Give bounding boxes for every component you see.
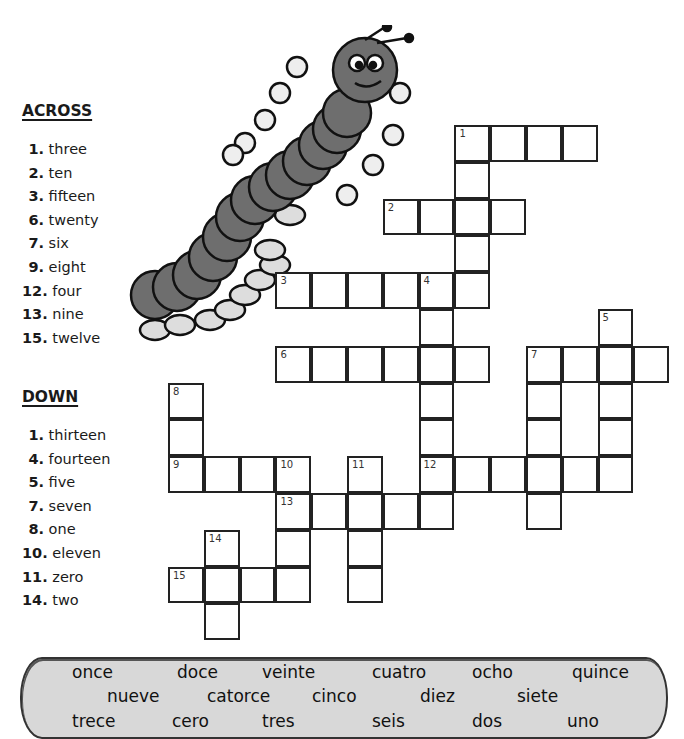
clue-number: 5.: [22, 471, 44, 495]
grid-cell[interactable]: [419, 346, 455, 383]
grid-cell[interactable]: [419, 309, 455, 346]
grid-cell[interactable]: [347, 493, 383, 530]
grid-cell[interactable]: [454, 346, 490, 383]
grid-cell[interactable]: [168, 419, 204, 456]
down-clue: 14. two: [22, 589, 110, 613]
grid-cell[interactable]: [526, 419, 562, 456]
across-clue: 3. fifteen: [22, 185, 100, 209]
clue-text: eleven: [48, 545, 101, 561]
cell-number: 15: [173, 570, 186, 581]
down-heading: DOWN: [22, 388, 110, 406]
grid-cell[interactable]: [633, 346, 669, 383]
grid-cell[interactable]: [383, 493, 419, 530]
grid-cell[interactable]: [311, 272, 347, 309]
grid-cell[interactable]: [275, 530, 311, 567]
grid-cell[interactable]: 7: [526, 346, 562, 383]
grid-cell[interactable]: [454, 162, 490, 199]
clue-text: eight: [44, 259, 86, 275]
word-bank-item: cero: [172, 711, 209, 731]
grid-cell[interactable]: [490, 125, 526, 162]
cell-number: 8: [173, 386, 179, 397]
grid-cell[interactable]: [311, 493, 347, 530]
down-clue: 7. seven: [22, 495, 110, 519]
grid-cell[interactable]: [562, 456, 598, 493]
grid-cell[interactable]: [347, 567, 383, 604]
grid-cell[interactable]: [383, 272, 419, 309]
grid-cell[interactable]: 14: [204, 530, 240, 567]
grid-cell[interactable]: [347, 272, 383, 309]
grid-cell[interactable]: [454, 456, 490, 493]
down-clue: 8. one: [22, 518, 110, 542]
grid-cell[interactable]: [526, 383, 562, 420]
grid-cell[interactable]: 11: [347, 456, 383, 493]
grid-cell[interactable]: 9: [168, 456, 204, 493]
clue-text: one: [44, 521, 76, 537]
cell-number: 2: [388, 202, 394, 213]
grid-cell[interactable]: [419, 383, 455, 420]
grid-cell[interactable]: [598, 419, 634, 456]
grid-cell[interactable]: [419, 199, 455, 236]
clue-number: 15.: [22, 327, 48, 351]
word-bank-item: doce: [177, 662, 218, 682]
clue-number: 14.: [22, 589, 48, 613]
clue-number: 1.: [22, 138, 44, 162]
clue-number: 8.: [22, 518, 44, 542]
grid-cell[interactable]: [490, 199, 526, 236]
grid-cell[interactable]: [311, 346, 347, 383]
grid-cell[interactable]: [240, 456, 276, 493]
across-clue: 9. eight: [22, 256, 100, 280]
grid-cell[interactable]: [526, 125, 562, 162]
grid-cell[interactable]: [204, 567, 240, 604]
grid-cell[interactable]: 4: [419, 272, 455, 309]
grid-cell[interactable]: [598, 383, 634, 420]
grid-cell[interactable]: 12: [419, 456, 455, 493]
clue-text: four: [48, 283, 82, 299]
word-bank-item: uno: [567, 711, 599, 731]
grid-cell[interactable]: 13: [275, 493, 311, 530]
word-bank-item: quince: [572, 662, 629, 682]
grid-cell[interactable]: [526, 456, 562, 493]
grid-cell[interactable]: [275, 567, 311, 604]
cell-number: 7: [531, 349, 537, 360]
grid-cell[interactable]: [526, 493, 562, 530]
clue-text: ten: [44, 165, 72, 181]
clue-number: 3.: [22, 185, 44, 209]
grid-cell[interactable]: [598, 456, 634, 493]
grid-cell[interactable]: [383, 346, 419, 383]
clue-number: 1.: [22, 424, 44, 448]
grid-cell[interactable]: [347, 346, 383, 383]
word-bank-item: seis: [372, 711, 405, 731]
cell-number: 10: [280, 459, 293, 470]
grid-cell[interactable]: [419, 419, 455, 456]
grid-cell[interactable]: [562, 125, 598, 162]
cell-number: 3: [280, 275, 286, 286]
grid-cell[interactable]: [240, 567, 276, 604]
grid-cell[interactable]: 3: [275, 272, 311, 309]
word-bank-item: ocho: [472, 662, 513, 682]
grid-cell[interactable]: 10: [275, 456, 311, 493]
grid-cell[interactable]: 15: [168, 567, 204, 604]
grid-cell[interactable]: [347, 530, 383, 567]
clue-number: 13.: [22, 303, 48, 327]
cell-number: 12: [424, 459, 437, 470]
cell-number: 1: [459, 128, 465, 139]
grid-cell[interactable]: [454, 199, 490, 236]
grid-cell[interactable]: [598, 346, 634, 383]
clue-text: nine: [48, 306, 84, 322]
clue-text: fifteen: [44, 188, 95, 204]
grid-cell[interactable]: [204, 456, 240, 493]
grid-cell[interactable]: [454, 272, 490, 309]
grid-cell[interactable]: 8: [168, 383, 204, 420]
grid-cell[interactable]: 1: [454, 125, 490, 162]
grid-cell[interactable]: 2: [383, 199, 419, 236]
grid-cell[interactable]: [204, 603, 240, 640]
across-clue: 6. twenty: [22, 209, 100, 233]
grid-cell[interactable]: [490, 456, 526, 493]
grid-cell[interactable]: 5: [598, 309, 634, 346]
grid-cell[interactable]: [562, 346, 598, 383]
grid-cell[interactable]: 6: [275, 346, 311, 383]
grid-cell[interactable]: [419, 493, 455, 530]
clue-text: three: [44, 141, 87, 157]
cell-number: 5: [603, 312, 609, 323]
grid-cell[interactable]: [454, 235, 490, 272]
